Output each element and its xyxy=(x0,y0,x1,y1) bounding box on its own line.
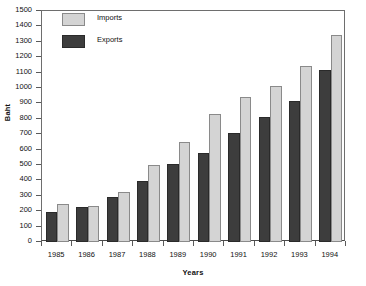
plot-area xyxy=(41,10,345,241)
x-tick-mark xyxy=(284,241,285,246)
x-tick-mark xyxy=(102,241,103,246)
y-tick-label: 1000 xyxy=(15,82,32,91)
bar-imports-1993 xyxy=(300,66,312,242)
x-tick-mark xyxy=(193,241,194,246)
bar-exports-1989 xyxy=(167,164,179,242)
y-tick-label: 1300 xyxy=(15,36,32,45)
bar-imports-1991 xyxy=(240,97,252,242)
bar-imports-1989 xyxy=(179,142,191,242)
y-tick: 900 xyxy=(0,102,41,103)
y-tick-label: 500 xyxy=(19,159,32,168)
y-tick-label: 800 xyxy=(19,113,32,122)
y-tick-label: 100 xyxy=(19,221,32,230)
bar-exports-1990 xyxy=(198,153,210,242)
x-tick-mark xyxy=(345,241,346,246)
y-tick: 700 xyxy=(0,133,41,134)
bar-imports-1990 xyxy=(209,114,221,242)
bar-exports-1988 xyxy=(137,181,149,242)
legend-label-imports: Imports xyxy=(97,13,122,22)
y-tick-label: 400 xyxy=(19,174,32,183)
x-tick-mark xyxy=(223,241,224,246)
y-tick: 1000 xyxy=(0,87,41,88)
bar-imports-1992 xyxy=(270,86,282,242)
y-tick-label: 700 xyxy=(19,128,32,137)
y-tick-label: 300 xyxy=(19,190,32,199)
y-tick: 1100 xyxy=(0,72,41,73)
x-tick-mark xyxy=(254,241,255,246)
legend-label-exports: Exports xyxy=(97,35,122,44)
x-tick-mark xyxy=(315,241,316,246)
legend-swatch-imports xyxy=(62,13,85,26)
x-tick-mark xyxy=(71,241,72,246)
bar-imports-1986 xyxy=(88,206,100,242)
y-tick-label: 1400 xyxy=(15,20,32,29)
y-tick-label: 200 xyxy=(19,205,32,214)
y-tick: 800 xyxy=(0,118,41,119)
y-tick-label: 1200 xyxy=(15,51,32,60)
y-tick: 200 xyxy=(0,210,41,211)
bar-imports-1988 xyxy=(148,165,160,242)
bar-exports-1992 xyxy=(259,117,271,242)
bar-exports-1993 xyxy=(289,101,301,242)
bar-exports-1986 xyxy=(76,207,88,242)
y-tick: 1300 xyxy=(0,41,41,42)
bar-exports-1985 xyxy=(46,212,58,242)
bar-exports-1991 xyxy=(228,133,240,242)
y-tick: 1200 xyxy=(0,56,41,57)
y-tick-label: 1100 xyxy=(16,67,32,76)
x-tick-mark xyxy=(41,241,42,246)
bar-imports-1985 xyxy=(57,204,69,242)
bar-chart: Baht Years 01002003004005006007008009001… xyxy=(0,0,366,286)
x-tick-mark xyxy=(163,241,164,246)
bar-exports-1987 xyxy=(107,197,119,242)
bar-imports-1994 xyxy=(331,35,343,242)
x-axis-title: Years xyxy=(40,268,346,277)
bar-imports-1987 xyxy=(118,192,130,242)
x-tick-label-1994: 1994 xyxy=(310,250,350,259)
y-tick-label: 900 xyxy=(19,97,32,106)
y-tick: 600 xyxy=(0,149,41,150)
x-tick-mark xyxy=(132,241,133,246)
y-tick: 400 xyxy=(0,179,41,180)
y-tick-label: 600 xyxy=(19,144,32,153)
y-tick-label: 0 xyxy=(28,236,32,245)
legend-swatch-exports xyxy=(62,35,85,48)
y-tick: 1400 xyxy=(0,25,41,26)
y-tick: 1500 xyxy=(0,10,41,11)
bar-exports-1994 xyxy=(319,70,331,242)
y-tick: 100 xyxy=(0,226,41,227)
y-tick-label: 1500 xyxy=(15,5,32,14)
y-tick: 500 xyxy=(0,164,41,165)
y-axis-title: Baht xyxy=(3,93,12,133)
y-tick: 300 xyxy=(0,195,41,196)
y-tick: 0 xyxy=(0,241,41,242)
